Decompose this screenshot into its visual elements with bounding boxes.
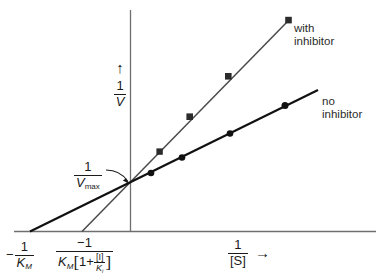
vmax-fraction: 1 Vmax bbox=[74, 160, 102, 191]
ki-one: 1 bbox=[79, 255, 86, 270]
data-point-no-inhibitor bbox=[282, 102, 289, 109]
no-inhibitor-line2: inhibitor bbox=[322, 108, 362, 121]
data-point-with-inhibitor bbox=[285, 17, 292, 24]
ki-plus-sign: + bbox=[86, 255, 94, 270]
y-axis-fraction: 1 V bbox=[114, 79, 127, 109]
data-point-no-inhibitor bbox=[148, 170, 155, 177]
x-axis-numerator: 1 bbox=[228, 238, 248, 254]
km-denominator: KM bbox=[15, 256, 34, 271]
ki-km-symbol: K bbox=[58, 254, 67, 269]
ki-fraction: −1 KM[1+ [I] Ki ] bbox=[56, 236, 113, 273]
series-label-no-inhibitor: no inhibitor bbox=[322, 95, 362, 121]
vmax-denominator-symbol: V bbox=[76, 175, 85, 190]
y-axis-arrow-icon: ↑ bbox=[103, 62, 137, 74]
vmax-numerator: 1 bbox=[74, 160, 102, 176]
km-denominator-symbol: K bbox=[17, 255, 26, 270]
data-point-with-inhibitor bbox=[156, 148, 162, 154]
x-axis-arrow-icon: → bbox=[255, 246, 270, 260]
y-axis-label: ↑ 1 V bbox=[103, 62, 137, 109]
data-point-no-inhibitor bbox=[227, 130, 234, 137]
ki-bracket-close: ] bbox=[105, 253, 111, 272]
vmax-denominator-subscript: max bbox=[85, 182, 100, 191]
x-axis-label: 1 [S] → bbox=[228, 238, 270, 268]
data-point-with-inhibitor bbox=[225, 73, 232, 80]
ki-inner-numerator: [I] bbox=[94, 252, 106, 263]
vmax-pointer-arrow bbox=[106, 170, 128, 181]
km-minus-sign: − bbox=[6, 248, 14, 263]
ki-inner-denominator: Ki bbox=[94, 263, 106, 274]
x-axis-denominator: [S] bbox=[228, 254, 248, 269]
km-numerator: 1 bbox=[15, 240, 34, 256]
ki-inner-denominator-subscript: i bbox=[102, 267, 103, 273]
ki-inner-fraction: [I] Ki bbox=[94, 252, 106, 274]
km-intercept-label: − 1 KM bbox=[6, 240, 34, 271]
km-denominator-subscript: M bbox=[25, 262, 32, 271]
lineweaver-burk-plot: ↑ 1 V 1 [S] → 1 Vmax − 1 KM −1 KM[1+ [I] bbox=[0, 0, 378, 280]
y-axis-numerator: 1 bbox=[114, 79, 127, 95]
with-inhibitor-line2: inhibitor bbox=[294, 35, 334, 48]
data-point-no-inhibitor bbox=[179, 154, 186, 161]
ki-intercept-label: −1 KM[1+ [I] Ki ] bbox=[56, 236, 113, 273]
vmax-annotation: 1 Vmax bbox=[74, 160, 102, 191]
x-axis-fraction: 1 [S] bbox=[228, 238, 248, 268]
with-inhibitor-line1: with bbox=[294, 22, 314, 34]
no-inhibitor-line1: no bbox=[322, 95, 335, 107]
y-axis-denominator: V bbox=[114, 95, 127, 110]
vmax-denominator: Vmax bbox=[74, 176, 102, 191]
ki-numerator: −1 bbox=[56, 236, 113, 252]
ki-denominator: KM[1+ [I] Ki ] bbox=[56, 252, 113, 274]
km-fraction: 1 KM bbox=[15, 240, 34, 271]
with-inhibitor-line bbox=[82, 20, 289, 232]
series-label-with-inhibitor: with inhibitor bbox=[294, 22, 334, 48]
data-point-with-inhibitor bbox=[186, 113, 193, 120]
